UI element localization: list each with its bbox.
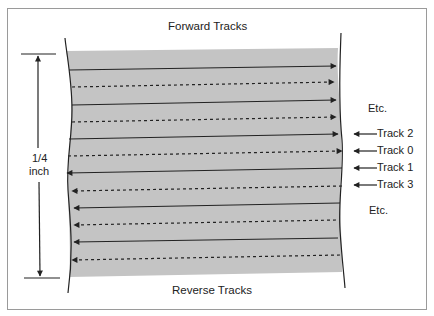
reverse-tracks-label: Reverse Tracks bbox=[172, 284, 252, 296]
track-label: Track 2 bbox=[377, 127, 413, 139]
forward-tracks-label: Forward Tracks bbox=[168, 20, 247, 32]
track-label: Track 1 bbox=[377, 161, 413, 173]
etc-label-top: Etc. bbox=[368, 102, 387, 114]
etc-label-bottom: Etc. bbox=[369, 204, 388, 216]
tape-diagram bbox=[0, 0, 434, 316]
track-pointers bbox=[354, 134, 377, 185]
track-label: Track 0 bbox=[377, 144, 413, 156]
dimension-label-unit: inch bbox=[29, 165, 49, 177]
track-label: Track 3 bbox=[377, 178, 413, 190]
dimension-label-value: 1/4 bbox=[32, 152, 47, 164]
